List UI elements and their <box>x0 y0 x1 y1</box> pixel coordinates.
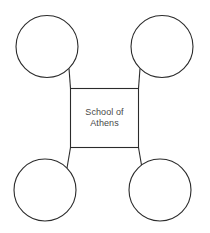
satellite-node-bottom-left[interactable] <box>14 159 76 221</box>
diagram-canvas <box>0 0 210 233</box>
connector-top-right <box>139 69 141 89</box>
concept-map-diagram: School of Athens <box>0 0 210 233</box>
satellite-node-top-left[interactable] <box>16 16 78 78</box>
connector-bottom-left <box>67 148 71 169</box>
center-node-rectangle[interactable] <box>71 89 139 148</box>
connector-top-left <box>69 69 71 89</box>
satellite-node-top-right[interactable] <box>131 16 193 78</box>
satellite-node-bottom-right[interactable] <box>129 159 191 221</box>
